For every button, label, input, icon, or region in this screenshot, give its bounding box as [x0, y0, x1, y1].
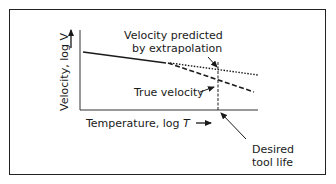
- annotation-desired-line2: tool life: [252, 156, 293, 169]
- annotation-desired-line1: Desired: [252, 143, 294, 156]
- annotation-predicted-line1: Velocity predicted: [124, 29, 223, 42]
- y-axis-label: Velocity, log V: [58, 33, 71, 111]
- annotation-predicted-line2: by extrapolation: [132, 42, 222, 55]
- annotation-true-velocity: True velocity: [134, 86, 204, 99]
- predicted-callout-arrow-icon: [208, 57, 217, 67]
- desired-tool-life-callout-arrow-icon: [221, 113, 246, 139]
- extrapolated-velocity-line: [170, 63, 258, 75]
- x-axis-label: Temperature, log T: [86, 117, 190, 130]
